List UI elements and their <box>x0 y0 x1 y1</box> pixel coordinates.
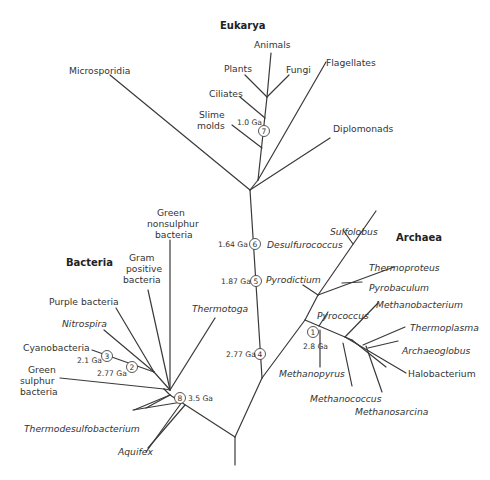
node-7-age: 1.0 Ga <box>237 118 262 127</box>
node-8: 8 <box>175 393 186 404</box>
node-6-age: 1.64 Ga <box>218 240 248 249</box>
taxon-thermoplasma: Thermoplasma <box>410 322 479 333</box>
node-5-age: 1.87 Ga <box>221 277 251 286</box>
taxon-thermotoga: Thermotoga <box>192 303 248 314</box>
svg-text:2: 2 <box>130 363 135 372</box>
taxon-gram-positive-line3: bacteria <box>123 274 161 285</box>
taxon-sulfolobus: Sulfolobus <box>330 226 378 237</box>
node-3: 3 <box>102 351 113 362</box>
taxon-green-nonsulphur-line1: Green <box>157 207 185 218</box>
tree-of-life-diagram: Eukarya Bacteria Archaea Microsporidia A… <box>0 0 490 480</box>
taxon-fungi: Fungi <box>286 64 311 75</box>
taxon-slime-molds-line2: molds <box>197 120 225 131</box>
svg-text:8: 8 <box>178 394 183 403</box>
node-1-age: 2.8 Ga <box>303 342 328 351</box>
taxon-pyrococcus: Pyrococcus <box>317 310 369 321</box>
node-6: 6 <box>250 239 261 250</box>
taxon-ciliates: Ciliates <box>209 88 243 99</box>
taxon-thermodesulfobacterium: Thermodesulfobacterium <box>24 423 140 434</box>
taxon-desulfurococcus: Desulfurococcus <box>267 239 343 250</box>
node-2: 2 <box>127 362 138 373</box>
taxon-thermoproteus: Thermoproteus <box>369 262 440 273</box>
node-4-age: 2.77 Ga <box>226 350 256 359</box>
taxon-diplomonads: Diplomonads <box>333 123 393 134</box>
taxon-nitrospira: Nitrospira <box>62 318 107 329</box>
taxon-plants: Plants <box>224 63 252 74</box>
node-2-age: 2.77 Ga <box>97 369 127 378</box>
node-4: 4 <box>255 349 266 360</box>
taxon-methanopyrus: Methanopyrus <box>279 368 345 379</box>
taxon-cyanobacteria: Cyanobacteria <box>23 342 90 353</box>
taxon-pyrodictium: Pyrodictium <box>266 274 321 285</box>
svg-text:6: 6 <box>253 240 258 249</box>
node-7: 7 <box>259 126 270 137</box>
node-1: 1 <box>308 327 319 338</box>
svg-text:5: 5 <box>254 277 259 286</box>
svg-text:3: 3 <box>105 352 110 361</box>
taxon-green-sulphur-line3: bacteria <box>20 386 58 397</box>
taxon-aquifex: Aquifex <box>117 446 153 457</box>
domain-label-bacteria: Bacteria <box>66 257 113 268</box>
taxon-green-nonsulphur-line2: nonsulphur <box>147 218 199 229</box>
node-5: 5 <box>251 276 262 287</box>
node-3-age: 2.1 Ga <box>77 356 102 365</box>
taxon-microsporidia: Microsporidia <box>69 65 130 76</box>
svg-text:4: 4 <box>258 350 263 359</box>
domain-label-archaea: Archaea <box>396 232 442 243</box>
node-8-age: 3.5 Ga <box>188 394 213 403</box>
taxon-green-sulphur-line1: Green <box>28 364 56 375</box>
taxon-gram-positive-line2: positive <box>126 263 162 274</box>
svg-text:1: 1 <box>311 328 316 337</box>
taxon-purple-bacteria: Purple bacteria <box>49 296 119 307</box>
taxon-gram-positive-line1: Gram <box>129 252 155 263</box>
taxon-flagellates: Flagellates <box>326 57 376 68</box>
taxon-archaeoglobus: Archaeoglobus <box>401 345 471 356</box>
taxon-pyrobaculum: Pyrobaculum <box>369 282 429 293</box>
taxon-green-nonsulphur-line3: bacteria <box>155 229 193 240</box>
taxon-methanococcus: Methanococcus <box>310 393 382 404</box>
taxon-slime-molds-line1: Slime <box>199 109 225 120</box>
domain-label-eukarya: Eukarya <box>220 20 266 31</box>
taxon-animals: Animals <box>254 39 291 50</box>
taxon-green-sulphur-line2: sulphur <box>20 375 55 386</box>
taxon-halobacterium: Halobacterium <box>408 368 476 379</box>
taxon-methanosarcina: Methanosarcina <box>355 406 429 417</box>
svg-text:7: 7 <box>262 127 267 136</box>
taxon-methanobacterium: Methanobacterium <box>376 299 463 310</box>
